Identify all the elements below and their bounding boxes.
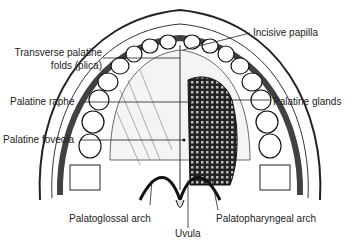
label-palatine-glands: Palatine glands (273, 96, 341, 108)
label-palatoglossal-arch: Palatoglossal arch (69, 213, 151, 225)
label-transverse-palatine-folds-line2: folds (plica) (6, 60, 102, 72)
label-palatopharyngeal-arch: Palatopharyngeal arch (216, 213, 316, 225)
label-incisive-papilla: Incisive papilla (253, 27, 318, 39)
label-palatine-foveola: Palatine foveola (3, 134, 74, 146)
label-palatine-raphe: Palatine raphe (10, 96, 75, 108)
label-transverse-palatine-folds-line1: Transverse palatine (6, 47, 102, 59)
label-uvula: Uvula (175, 228, 201, 240)
